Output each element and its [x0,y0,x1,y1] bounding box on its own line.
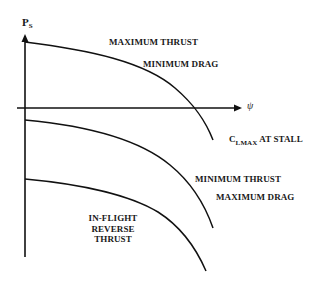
label-maximum-thrust: MAXIMUM THRUST [109,37,198,47]
y-axis-label: PS [22,16,33,30]
curve-max-thrust [25,42,213,140]
label-in-flight-reverse-thrust: IN-FLIGHT REVERSE THRUST [86,213,140,245]
label-minimum-drag: MINIMUM DRAG [143,59,218,69]
label-thrust: THRUST [86,234,140,245]
label-clmax-at-stall: CLMAX AT STALL [229,134,303,147]
y-axis-label-sub: S [29,22,33,30]
clmax-suffix: AT STALL [257,134,302,144]
y-axis-label-main: P [22,16,29,28]
x-axis-label: ψ [247,100,253,111]
label-minimum-thrust: MINIMUM THRUST [195,174,281,184]
label-reverse: REVERSE [86,224,140,235]
clmax-main: C [229,134,236,144]
label-in-flight: IN-FLIGHT [86,213,140,224]
curve-min-thrust [25,120,213,228]
label-maximum-drag: MAXIMUM DRAG [216,192,294,202]
clmax-sub: LMAX [236,139,258,147]
